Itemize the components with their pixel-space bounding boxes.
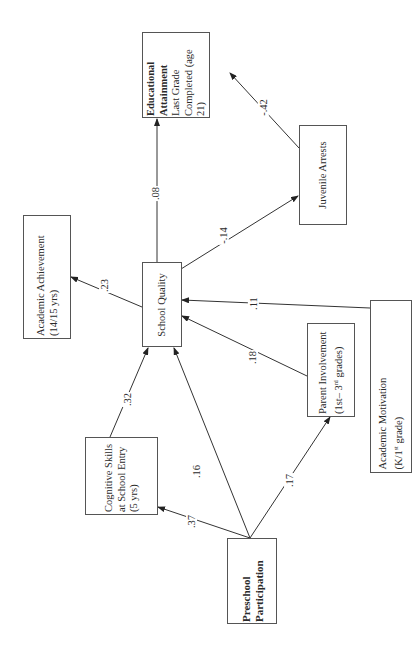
coef-am-sq: .11 bbox=[248, 296, 259, 311]
edge-pi-sq bbox=[182, 316, 307, 376]
edge-sq-ja bbox=[181, 196, 298, 269]
juvenile-arrests-title: Juvenile Arrests bbox=[317, 141, 328, 208]
parent-involvement-sup: rd bbox=[332, 380, 338, 385]
node-academic-achievement: Academic Achievement (14/15 yrs) bbox=[23, 215, 71, 339]
school-quality-title: School Quality bbox=[156, 273, 167, 336]
academic-motivation-title: Academic Motivation bbox=[377, 304, 390, 469]
educational-attainment-title: Educational Attainment bbox=[145, 34, 170, 116]
academic-motivation-grade: (K/1st grade) bbox=[389, 304, 405, 469]
educational-attainment-subtitle: Last Grade Completed (age 21) bbox=[170, 34, 208, 116]
parent-involvement-tail: grades) bbox=[333, 347, 344, 381]
node-juvenile-arrests: Juvenile Arrests bbox=[299, 125, 347, 225]
node-cognitive-skills: Cognitive Skills at School Entry (5 yrs) bbox=[85, 437, 158, 515]
node-preschool-participation: Preschool Participation bbox=[227, 538, 277, 624]
parent-involvement-grade: 3 bbox=[333, 385, 344, 390]
coef-cs-sq: .32 bbox=[122, 392, 133, 407]
edge-pp-sq bbox=[174, 348, 250, 538]
coef-ja-ea: -.42 bbox=[258, 98, 269, 117]
node-parent-involvement: Parent Involvement (1st– 3rd grades) bbox=[307, 323, 355, 417]
coef-pp-cs: .37 bbox=[186, 514, 197, 529]
node-educational-attainment: Educational Attainment Last Grade Comple… bbox=[142, 32, 210, 118]
coef-pp-sq: .16 bbox=[191, 464, 202, 479]
academic-achievement-title: Academic Achievement (14/15 yrs) bbox=[35, 235, 59, 336]
edge-pp-cs bbox=[158, 507, 250, 538]
node-academic-motivation: Academic Motivation (K/1st grade) bbox=[370, 300, 412, 473]
node-school-quality: School Quality bbox=[142, 262, 182, 347]
coef-sq-ja: -.14 bbox=[218, 226, 229, 245]
edge-am-sq bbox=[182, 300, 370, 308]
coef-pi-sq: .18 bbox=[247, 350, 258, 365]
preschool-participation-title: Preschool Participation bbox=[240, 560, 265, 622]
coef-sq-aa: .23 bbox=[99, 278, 110, 293]
cognitive-skills-title: Cognitive Skills at School Entry (5 yrs) bbox=[103, 444, 139, 512]
coef-sq-ea: .08 bbox=[150, 186, 161, 201]
coef-pp-pi: .17 bbox=[284, 473, 295, 488]
